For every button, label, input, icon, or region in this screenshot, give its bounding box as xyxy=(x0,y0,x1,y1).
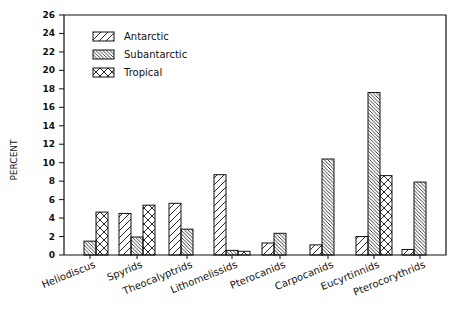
y-tick-label: 16 xyxy=(42,102,55,112)
y-tick-label: 8 xyxy=(49,176,55,186)
y-tick-label: 14 xyxy=(42,121,55,131)
bar-tropical-eucyrtinnids xyxy=(380,176,392,255)
bar-antarctic-carpocanids xyxy=(310,245,322,255)
bar-tropical-lithomelissids xyxy=(238,251,250,255)
x-axis-labels: HeliodiscusSpyridsTheocalyptridsLithomel… xyxy=(40,259,427,298)
y-tick-label: 22 xyxy=(42,47,55,57)
bar-antarctic-lithomelissids xyxy=(214,175,226,255)
bar-antarctic-spyrids xyxy=(119,213,131,255)
legend-swatch-antarctic xyxy=(93,32,114,41)
y-tick-label: 12 xyxy=(42,139,55,149)
y-tick-label: 6 xyxy=(49,195,55,205)
bar-antarctic-eucyrtinnids xyxy=(356,237,368,255)
bar-antarctic-pterocanids xyxy=(262,243,274,255)
legend-label-subantarctic: Subantarctic xyxy=(124,49,187,60)
legend-swatch-tropical xyxy=(93,68,114,77)
bar-subantarctic-pterocorythrids xyxy=(414,182,426,255)
y-tick-label: 4 xyxy=(49,213,55,223)
y-tick-label: 24 xyxy=(42,28,55,38)
legend-label-antarctic: Antarctic xyxy=(124,31,169,42)
bar-subantarctic-eucyrtinnids xyxy=(368,93,380,255)
y-tick-label: 2 xyxy=(49,232,55,242)
y-tick-label: 20 xyxy=(42,65,55,75)
legend-swatch-subantarctic xyxy=(93,50,114,59)
bar-subantarctic-carpocanids xyxy=(322,159,334,255)
y-axis: 02468101214161820222426 xyxy=(42,10,64,260)
bar-chart: 02468101214161820222426 PERCENT Heliodis… xyxy=(0,0,456,319)
bar-subantarctic-pterocanids xyxy=(274,233,286,255)
bar-subantarctic-theocalyptrids xyxy=(181,229,193,255)
bar-tropical-spyrids xyxy=(143,205,155,255)
bar-subantarctic-lithomelissids xyxy=(226,250,238,255)
y-tick-label: 0 xyxy=(49,250,55,260)
bar-antarctic-theocalyptrids xyxy=(169,203,181,255)
legend: AntarcticSubantarcticTropical xyxy=(93,31,187,78)
bars xyxy=(84,93,426,259)
bar-subantarctic-spyrids xyxy=(131,237,143,255)
bar-subantarctic-heliodiscus xyxy=(84,241,96,255)
bar-antarctic-pterocorythrids xyxy=(402,249,414,255)
y-axis-label: PERCENT xyxy=(9,139,19,181)
x-tick-label: Heliodiscus xyxy=(40,259,97,290)
legend-label-tropical: Tropical xyxy=(123,67,162,78)
y-tick-label: 10 xyxy=(42,158,55,168)
y-tick-label: 18 xyxy=(42,84,55,94)
y-tick-label: 26 xyxy=(42,10,55,20)
bar-tropical-heliodiscus xyxy=(96,212,108,255)
